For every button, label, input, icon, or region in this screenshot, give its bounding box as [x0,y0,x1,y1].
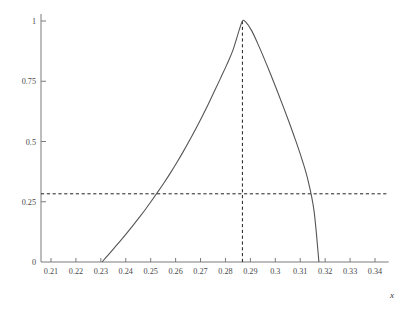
x-tick-label: 0.3 [270,267,280,276]
x-tick-label: 0.25 [144,267,158,276]
x-tick-label: 0.23 [94,267,108,276]
x-tick-label: 0.27 [193,267,207,276]
plot-area: 0.210.220.230.240.250.260.270.280.290.30… [22,14,389,276]
y-tick-label: 0 [32,258,36,267]
chart-figure: 0.210.220.230.240.250.260.270.280.290.30… [0,0,417,312]
x-tick-label: 0.28 [218,267,232,276]
y-tick-label: 0.5 [26,138,36,147]
x-tick-label: 0.34 [368,267,382,276]
x-tick-label: 0.33 [343,267,357,276]
data-curve [102,20,319,262]
x-tick-label: 0.29 [243,267,257,276]
x-tick-label: 0.21 [44,267,58,276]
x-tick-label: 0.32 [318,267,332,276]
x-tick-label: 0.22 [69,267,83,276]
x-tick-label: 0.26 [168,267,182,276]
x-tick-label: 0.24 [119,267,133,276]
y-tick-label: 1 [32,17,36,26]
x-tick-label: 0.31 [293,267,307,276]
y-tick-label: 0.25 [22,198,36,207]
x-axis-label: x [389,290,394,300]
y-tick-label: 0.75 [22,77,36,86]
